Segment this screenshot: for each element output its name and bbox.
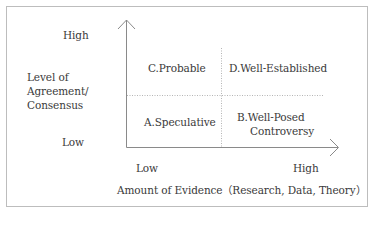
quadrant-d-label: D.Well-Established — [229, 62, 327, 75]
y-axis-low-label: Low — [62, 136, 84, 149]
quadrant-a-label: A.Speculative — [144, 116, 216, 129]
quadrant-b-label-line: B.Well-Posed — [237, 111, 305, 124]
y-axis-title-line: Agreement/ — [27, 85, 88, 98]
quadrant-c-label: C.Probable — [148, 62, 206, 75]
x-axis-title: Amount of Evidence（Research, Data, Theor… — [117, 184, 365, 197]
y-axis-high-label: High — [63, 29, 89, 42]
y-axis-title-line: Consensus — [27, 99, 83, 112]
y-axis-title-line: Level of — [27, 71, 68, 84]
x-axis-high-label: High — [293, 162, 319, 175]
quadrant-b-label-line: Controversy — [250, 125, 314, 138]
x-axis-low-label: Low — [136, 162, 158, 175]
